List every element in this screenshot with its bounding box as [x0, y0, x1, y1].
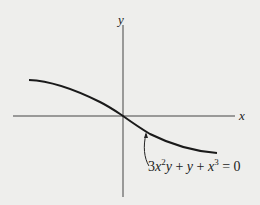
eq-plus2: +: [193, 159, 208, 174]
eq-equals-zero: = 0: [219, 159, 241, 174]
x-axis-label: x: [239, 109, 245, 122]
y-axis-label: y: [118, 13, 124, 26]
eq-plus: +: [172, 159, 187, 174]
equation-label: 3x2y + y + x3 = 0: [148, 160, 241, 174]
eq-coef: 3: [148, 159, 155, 174]
plot-canvas: [0, 0, 260, 205]
figure: y x 3x2y + y + x3 = 0: [0, 0, 260, 205]
